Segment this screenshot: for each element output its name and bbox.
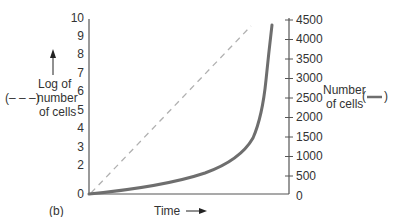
right-tick: 2500 xyxy=(296,92,323,104)
right-legend-close: ) xyxy=(384,90,388,103)
right-tick: 2000 xyxy=(296,111,323,123)
cell-count-series xyxy=(89,25,272,194)
left-axis-label-line1: Log of xyxy=(38,78,71,91)
left-tick: 8 xyxy=(64,48,84,60)
right-tick: 0 xyxy=(296,190,303,202)
left-axis-label-line3: of cells xyxy=(39,106,76,119)
right-tick: 4500 xyxy=(296,14,323,26)
up-arrow-icon xyxy=(50,49,56,58)
right-legend-open: ( xyxy=(362,90,366,103)
left-tick: 10 xyxy=(64,12,84,24)
right-tick: 3500 xyxy=(296,53,323,65)
left-tick: 9 xyxy=(64,30,84,42)
right-tick: 1500 xyxy=(296,131,323,143)
left-tick: 2 xyxy=(64,159,84,171)
left-tick: 0 xyxy=(64,188,84,200)
time-arrow-icon xyxy=(199,208,207,214)
right-tick: 500 xyxy=(296,170,316,182)
right-axis-label-line2: of cells xyxy=(326,98,363,111)
log-cells-series xyxy=(91,26,251,193)
panel-label: (b) xyxy=(49,205,64,217)
right-tick: 4000 xyxy=(296,33,323,45)
right-tick: 1000 xyxy=(296,150,323,162)
right-axis-label-line1: Number xyxy=(323,84,366,97)
left-axis-label-line2: number xyxy=(37,92,78,105)
left-tick: 3 xyxy=(64,141,84,153)
x-axis-label: Time xyxy=(154,205,180,217)
left-axis-legend: (– – –) xyxy=(5,92,40,105)
right-tick: 3000 xyxy=(296,72,323,84)
left-tick: 4 xyxy=(64,122,84,134)
